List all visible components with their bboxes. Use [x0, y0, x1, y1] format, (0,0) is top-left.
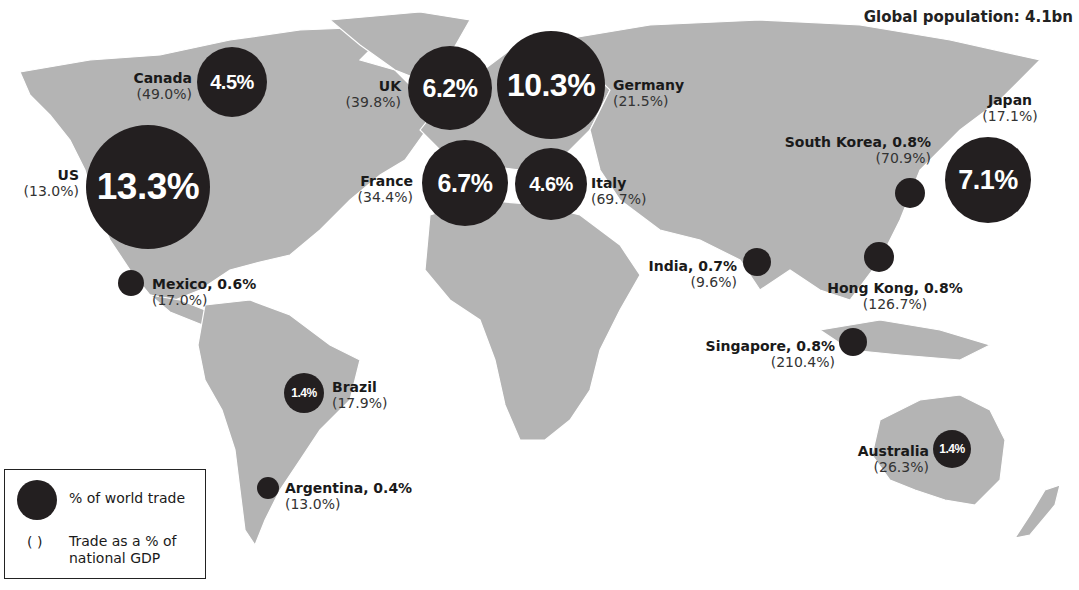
label-singapore: Singapore, 0.8% (210.4%) [706, 338, 835, 370]
uk-trade-value: 6.2% [423, 74, 478, 103]
bubble-brazil: 1.4% [284, 373, 324, 413]
bubble-australia: 1.4% [933, 430, 971, 468]
africa-landmass [425, 200, 640, 440]
france-trade-value: 6.7% [438, 169, 493, 198]
label-australia: Australia (26.3%) [858, 443, 929, 475]
canada-trade-value: 4.5% [210, 71, 254, 94]
legend: % of world trade ( ) Trade as a % of nat… [4, 469, 206, 579]
label-france: France (34.4%) [358, 173, 413, 205]
legend-paren-symbol: ( ) [27, 534, 42, 550]
label-uk: UK (39.8%) [346, 78, 401, 110]
label-italy: Italy (69.7%) [591, 175, 646, 207]
new-zealand-landmass [1015, 485, 1060, 538]
bubble-argentina [257, 477, 279, 499]
bubble-singapore [839, 328, 867, 356]
germany-trade-value: 10.3% [507, 67, 595, 104]
legend-bubble-icon [17, 480, 57, 520]
bubble-japan: 7.1% [945, 137, 1031, 223]
global-population-title: Global population: 4.1bn [864, 8, 1073, 26]
bubble-india [743, 248, 771, 276]
label-japan: Japan (17.1%) [955, 92, 1065, 124]
label-canada: Canada (49.0%) [133, 70, 192, 102]
bubble-hong-kong [864, 242, 894, 272]
bubble-italy: 4.6% [515, 148, 587, 220]
label-mexico: Mexico, 0.6% (17.0%) [152, 276, 256, 308]
bubble-south-korea [895, 178, 925, 208]
label-brazil: Brazil (17.9%) [332, 379, 387, 411]
bubble-france: 6.7% [422, 140, 508, 226]
label-south-korea: South Korea, 0.8% (70.9%) [785, 134, 931, 166]
bubble-germany: 10.3% [497, 31, 605, 139]
label-germany: Germany (21.5%) [613, 77, 684, 109]
italy-trade-value: 4.6% [529, 173, 573, 196]
legend-paren-label: Trade as a % of national GDP [69, 533, 199, 567]
bubble-canada: 4.5% [197, 47, 267, 117]
australia-trade-value: 1.4% [939, 442, 964, 456]
bubble-uk: 6.2% [408, 46, 492, 130]
japan-trade-value: 7.1% [958, 165, 1018, 196]
bubble-us: 13.3% [86, 125, 210, 249]
label-argentina: Argentina, 0.4% (13.0%) [285, 480, 412, 512]
bubble-mexico [118, 270, 144, 296]
brazil-trade-value: 1.4% [291, 386, 316, 400]
legend-bubble-label: % of world trade [69, 490, 185, 506]
label-us: US (13.0%) [24, 167, 79, 199]
label-hong-kong: Hong Kong, 0.8% (126.7%) [820, 280, 970, 312]
us-trade-value: 13.3% [97, 166, 199, 208]
label-india: India, 0.7% (9.6%) [649, 258, 737, 290]
